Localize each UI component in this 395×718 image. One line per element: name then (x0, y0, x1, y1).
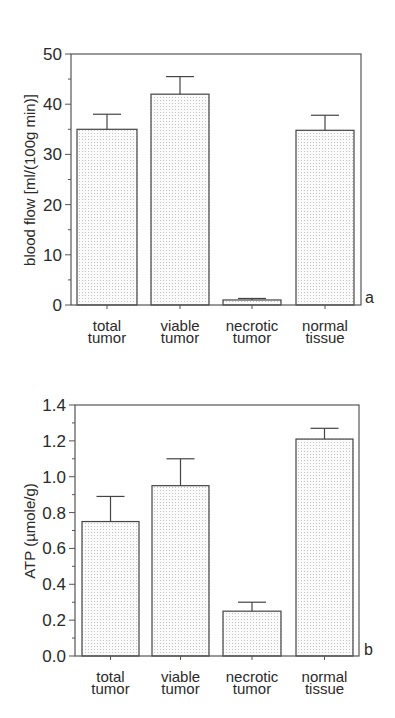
bar-total-tumor (77, 129, 137, 305)
y-tick-label: 1.4 (42, 396, 66, 415)
y-tick-label: 0.4 (42, 575, 66, 594)
y-tick-label: 0.8 (42, 504, 66, 523)
x-category-label: tumor (161, 329, 199, 346)
x-category-label: tumor (91, 680, 129, 697)
panel-label: b (364, 641, 373, 658)
chart-panel-b: totaltumorviabletumornecrotictumornormal… (21, 396, 373, 697)
y-axis-label: ATP (µmole/g) (21, 483, 38, 579)
x-category-label: tumor (88, 329, 126, 346)
y-tick-label: 0.0 (42, 647, 66, 666)
y-tick-label: 50 (43, 45, 62, 64)
y-tick-label: 30 (43, 145, 62, 164)
x-category-label: tumor (233, 329, 271, 346)
y-tick-label: 40 (43, 95, 62, 114)
bar-total-tumor (82, 522, 139, 656)
y-tick-label: 1.0 (42, 468, 66, 487)
panel-label: a (365, 289, 374, 306)
chart-canvas: totaltumorviabletumornecrotictumornormal… (0, 0, 395, 718)
x-category-label: tumor (233, 680, 271, 697)
bar-chart-figure: totaltumorviabletumornecrotictumornormal… (0, 0, 395, 718)
y-tick-label: 0.2 (42, 611, 66, 630)
x-category-label: tissue (305, 680, 344, 697)
chart-panel-a: totaltumorviabletumornecrotictumornormal… (21, 45, 374, 346)
bar-necrotic-tumor (223, 300, 281, 305)
bar-viable-tumor (151, 94, 209, 305)
x-category-label: tissue (305, 329, 344, 346)
y-tick-label: 0.6 (42, 539, 66, 558)
x-category-label: tumor (161, 680, 199, 697)
bar-necrotic-tumor (223, 611, 281, 656)
y-tick-label: 1.2 (42, 432, 66, 451)
y-tick-label: 10 (43, 246, 62, 265)
bar-normal-tissue (296, 439, 353, 656)
bar-viable-tumor (152, 486, 209, 656)
y-axis-label: blood flow [ml/(100g min)] (21, 94, 38, 266)
y-tick-label: 0 (53, 296, 62, 315)
y-tick-label: 20 (43, 196, 62, 215)
bar-normal-tissue (296, 130, 354, 305)
